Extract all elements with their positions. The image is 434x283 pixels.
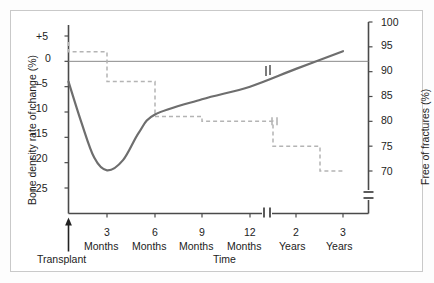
- x-tick-label-3-years-value: 3: [340, 226, 346, 238]
- figure-container: +5 0 –5 –10 –15 –20 –25 100 95 90 85 80 …: [0, 0, 434, 283]
- x-tick-label-2-years-value: 2: [293, 226, 299, 238]
- x-tick-label-2-years-unit: Years: [279, 240, 305, 252]
- right-axis-title: Free of fractures (%): [419, 89, 431, 185]
- right-tick-label-4: 80: [381, 114, 393, 126]
- transplant-annotation-label: Transplant: [37, 253, 86, 265]
- x-tick-label-12-months-value: 12: [244, 226, 256, 238]
- right-tick-label-6: 70: [381, 165, 393, 177]
- x-tick-label-6-months-unit: Months: [132, 240, 166, 252]
- left-axis-title: Bone density rate of change (%): [26, 55, 38, 205]
- x-tick-label-9-months-value: 9: [199, 226, 205, 238]
- x-axis-title: Time: [213, 253, 236, 265]
- bone-density-curve: [69, 51, 344, 170]
- left-tick-label-1: 0: [45, 52, 51, 64]
- x-tick-label-3-months-unit: Months: [84, 240, 118, 252]
- x-tick-label-12-months-unit: Months: [227, 240, 261, 252]
- right-tick-label-5: 75: [381, 140, 393, 152]
- x-tick-label-3-months-value: 3: [104, 226, 110, 238]
- axis-break-markers: [266, 65, 277, 125]
- right-tick-label-1: 95: [381, 39, 393, 51]
- x-tick-label-3-years-unit: Years: [326, 240, 352, 252]
- right-tick-label-3: 85: [381, 89, 393, 101]
- left-tick-label-0: +5: [36, 30, 48, 42]
- x-tick-label-9-months-unit: Months: [179, 240, 213, 252]
- x-tick-label-6-months-value: 6: [152, 226, 158, 238]
- right-tick-label-0: 100: [381, 16, 399, 28]
- right-tick-label-2: 90: [381, 64, 393, 76]
- chart-plot-area: [0, 0, 434, 283]
